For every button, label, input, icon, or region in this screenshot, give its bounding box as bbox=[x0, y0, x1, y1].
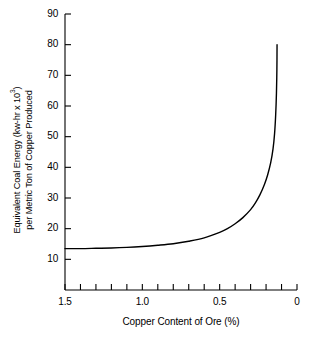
y-tick-label: 50 bbox=[34, 130, 58, 141]
y-tick-label: 40 bbox=[34, 161, 58, 172]
y-tick-label: 10 bbox=[34, 253, 58, 264]
x-tick-label: 1.0 bbox=[127, 296, 157, 307]
y-tick-label: 70 bbox=[34, 69, 58, 80]
y-tick-label: 60 bbox=[34, 100, 58, 111]
x-tick-group bbox=[65, 284, 297, 290]
y-tick-label: 30 bbox=[34, 192, 58, 203]
chart-figure: Equivalent Coal Energy (kw-hr x 103) per… bbox=[0, 0, 312, 340]
y-tick-label: 80 bbox=[34, 38, 58, 49]
y-tick-label: 20 bbox=[34, 222, 58, 233]
x-tick-label: 1.5 bbox=[50, 296, 80, 307]
y-tick-group bbox=[65, 14, 71, 259]
data-curve bbox=[65, 45, 277, 249]
y-tick-label: 90 bbox=[34, 8, 58, 19]
x-tick-label: 0 bbox=[282, 296, 312, 307]
x-tick-label: 0.5 bbox=[205, 296, 235, 307]
